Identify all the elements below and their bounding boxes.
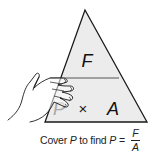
caption-covered-var: P bbox=[70, 134, 77, 146]
multiply-operator: × bbox=[79, 100, 88, 117]
caption-prefix: Cover bbox=[40, 134, 67, 146]
fraction-denominator: A bbox=[132, 142, 139, 153]
fraction-numerator: F bbox=[132, 128, 138, 139]
bottom-right-variable-a: A bbox=[106, 99, 119, 119]
caption-result-var: P bbox=[109, 134, 116, 146]
caption-middle: to find bbox=[79, 134, 106, 146]
caption-fraction: F A bbox=[131, 128, 140, 152]
caption-equals: = bbox=[119, 134, 125, 146]
top-variable-f: F bbox=[82, 51, 94, 71]
caption: Cover P to find P= F A bbox=[40, 128, 140, 152]
